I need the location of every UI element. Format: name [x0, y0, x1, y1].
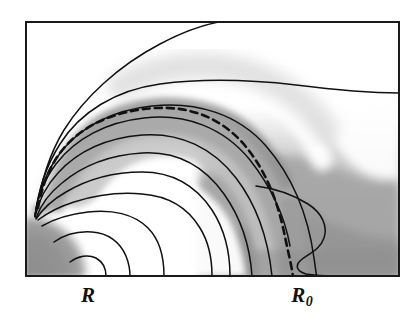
- axis-label-r0-text: R: [291, 283, 305, 307]
- field-line-diagram: [0, 0, 418, 322]
- density-shading: [26, 22, 399, 276]
- bottom-right-strip: [250, 250, 399, 276]
- figure-container: R R0: [0, 0, 418, 322]
- axis-label-r0: R0: [291, 283, 313, 310]
- axis-label-r: R: [81, 283, 95, 308]
- axis-label-r-text: R: [81, 283, 95, 307]
- axis-label-r0-subscript: 0: [306, 294, 313, 309]
